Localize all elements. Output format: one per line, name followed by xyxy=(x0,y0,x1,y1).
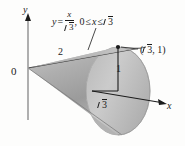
equation-fraction: x 3 xyxy=(65,10,74,32)
domain-relation-1: ≤ xyxy=(85,16,93,27)
domain-variable: x xyxy=(92,16,96,27)
equation-comma: , xyxy=(75,16,78,27)
domain-lower-bound: 0 xyxy=(80,16,85,27)
point-close-paren: ) xyxy=(162,44,165,55)
cone-revolution-figure: y x 0 2 1 3 (3, 1) y= x 3 , 0≤x≤3 xyxy=(0,0,185,146)
y-axis-label: y xyxy=(23,5,27,15)
radical-sign-icon: 3 xyxy=(98,99,107,110)
x-intercept-label: 3 xyxy=(98,99,107,110)
fraction-denominator: 3 xyxy=(65,21,74,32)
endpoint-coordinate-label: (3, 1) xyxy=(140,44,166,55)
endpoint-marker xyxy=(116,45,120,49)
x-axis-label: x xyxy=(167,101,171,111)
radical-sign-icon: 3 xyxy=(143,44,152,55)
radical-sign-icon: 3 xyxy=(104,16,113,27)
fraction-numerator: x xyxy=(65,10,74,20)
radical-sign-icon: 3 xyxy=(65,22,74,32)
origin-label: 0 xyxy=(11,66,17,77)
equation-label: y= x 3 , 0≤x≤3 xyxy=(52,10,113,32)
x-axis-arrowhead xyxy=(158,99,167,105)
slant-length-label: 2 xyxy=(58,47,63,57)
point-comma: , xyxy=(152,44,155,55)
radius-label: 1 xyxy=(116,64,121,74)
equation-equals-sign: = xyxy=(56,16,64,27)
